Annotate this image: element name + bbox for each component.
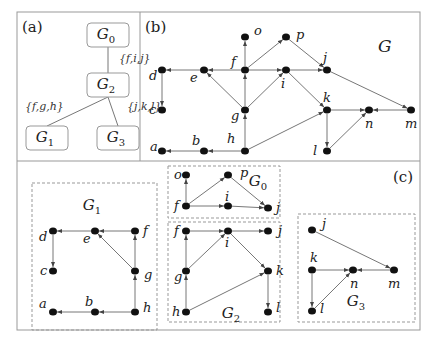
g-node-label-i: i [281,76,285,91]
g-edge-f-p [248,40,283,68]
subgraph-label-G0: G0 [249,172,267,192]
g1-node-label-f: f [142,223,150,238]
g0-node-o [182,172,190,179]
subgraph-label-G1: G1 [83,196,101,216]
outer-frame [17,12,420,330]
g3-node-label-j: j [319,216,326,231]
g-node-label-j: j [320,50,327,65]
g0-node-label-f: f [173,198,181,213]
g-node-j [323,67,331,74]
g1-node-b [91,309,99,316]
g3-node-m [390,267,398,274]
g-node-label-c: c [149,102,157,117]
tree-decomposition-figure: (a) (b) (c) Ψ G {f,i,j}{f,g,h}{j,k,l}G0G… [0,0,434,340]
g-edge-i-k [289,73,324,107]
g2-node-label-i: i [225,235,229,250]
g2-node-label-j: j [275,223,282,238]
panel-b-label: (b) [145,18,166,36]
separator-label: {f,i,j} [119,52,151,65]
g1-node-g [131,268,139,275]
g1-node-a [49,309,57,316]
subgraph-label-G2: G2 [222,304,240,324]
g1-node-e [91,228,99,235]
g-node-label-k: k [323,90,331,105]
g-node-label-h: h [227,131,235,146]
g-node-m [407,107,415,114]
g-node-d [158,67,166,74]
g2-edge-i-k [231,234,265,268]
g-edge-l-n [330,113,366,148]
g2-node-label-f: f [173,223,181,238]
g-node-label-g: g [231,108,239,123]
g-node-o [241,34,249,41]
g2-node-label-g: g [174,269,182,284]
subgraph-G1: defcgabhG1 [39,196,152,316]
g-node-label-a: a [150,139,158,154]
g3-node-label-k: k [310,250,318,265]
g2-node-label-h: h [172,304,180,319]
g2-node-i [224,228,232,235]
g-node-label-p: p [296,27,305,42]
g-node-g [241,107,249,114]
g1-node-c [49,268,57,275]
g-node-l [323,148,331,155]
g1-node-label-g: g [144,267,152,282]
g2-node-f [182,228,190,235]
subgraph-label-G3: G3 [347,292,365,312]
g2-edge-g-i [189,234,225,268]
g1-node-h [131,309,139,316]
g3-node-label-m: m [388,276,400,291]
g0-node-label-p: p [240,165,249,180]
g3-edge-j-m [316,232,391,268]
g-node-e [200,67,208,74]
g-node-label-d: d [149,68,157,83]
g-edge-g-i [248,73,283,107]
g-node-a [158,148,166,155]
g1-node-label-d: d [39,229,47,244]
separator-label: {j,k,l} [127,100,162,113]
subgraphs: defcgabhG1opfijG0fijgkhlG2jknmlG3 [39,165,400,324]
g1-node-label-c: c [40,263,48,278]
g1-node-f [131,228,139,235]
g2-node-label-k: k [276,263,284,278]
g0-node-label-j: j [273,200,280,215]
g-edge-j-m [331,72,408,109]
g-node-f [241,67,249,74]
g1-node-label-e: e [83,231,91,246]
g0-edge-f-p [189,177,225,203]
g3-node-n [349,267,357,274]
g0-edge-i-j [232,206,264,208]
g-edge-p-j [289,40,324,68]
g-node-n [365,107,373,114]
g3-node-k [308,267,316,274]
subgraph-G3: jknmlG3 [308,216,400,316]
g-node-c [158,107,166,114]
g-node-label-m: m [405,116,417,131]
g0-node-label-i: i [225,189,229,204]
tree-edge-G2-G3 [108,97,118,126]
g-node-label-f: f [230,54,238,69]
g-node-h [241,148,249,155]
g-node-label-e: e [190,70,198,85]
g-node-b [200,148,208,155]
g-node-i [282,67,290,74]
g-node-label-o: o [254,23,262,38]
g1-node-d [49,228,57,235]
g-edge-g-e [207,73,242,107]
graph-g-label: G [378,36,392,56]
g-node-label-b: b [192,133,200,148]
g0-node-f [182,203,190,210]
decomposition-tree: {f,i,j}{f,g,h}{j,k,l}G0G2G1G3 [25,23,162,150]
g1-node-label-h: h [143,300,151,315]
g3-node-l [308,308,316,315]
g2-node-k [264,268,272,275]
g2-node-h [182,309,190,316]
separator-label: {f,g,h} [25,100,64,113]
g3-node-label-n: n [350,276,358,291]
g2-node-j [264,228,272,235]
g1-edge-g-e [98,234,132,268]
panel-c-label: (c) [393,168,413,186]
g-node-k [323,107,331,114]
g2-node-g [182,268,190,275]
g0-node-p [224,172,232,179]
